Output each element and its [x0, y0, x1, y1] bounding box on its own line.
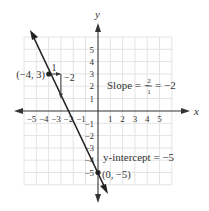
y-axis-arrow-up — [95, 23, 101, 32]
slope-annotation: Slope = − 2 1 = −2 — [107, 77, 176, 96]
svg-text:Slope = −: Slope = − — [107, 79, 150, 91]
svg-text:3: 3 — [90, 69, 95, 79]
svg-text:2: 2 — [120, 114, 125, 124]
rise-label: −2 — [64, 72, 75, 83]
svg-text:−5: −5 — [84, 168, 94, 178]
svg-text:1: 1 — [90, 94, 95, 104]
svg-text:= −2: = −2 — [155, 79, 176, 91]
intercept-annotation: y-intercept = −5 — [103, 151, 175, 163]
point-a-marker — [46, 71, 51, 76]
run-arrowhead — [56, 72, 61, 76]
x-tick-labels: −5 −4 −3 −2 −1 1 2 3 4 5 — [27, 114, 163, 124]
svg-text:−1: −1 — [84, 119, 94, 129]
run-label: 1 — [52, 62, 57, 73]
svg-text:−4: −4 — [39, 114, 49, 124]
svg-text:2: 2 — [90, 81, 95, 91]
svg-text:3: 3 — [133, 114, 138, 124]
svg-text:4: 4 — [145, 114, 150, 124]
point-b-marker — [95, 170, 100, 175]
svg-text:−5: −5 — [27, 114, 37, 124]
coordinate-plane: x y −5 −4 −3 −2 −1 1 2 3 4 5 5 4 3 2 1 −… — [0, 0, 209, 211]
svg-text:5: 5 — [157, 114, 162, 124]
svg-text:2: 2 — [147, 77, 151, 85]
svg-text:−3: −3 — [51, 114, 61, 124]
svg-text:−2: −2 — [84, 131, 94, 141]
x-axis-arrow-left — [14, 108, 23, 114]
line-arrow-bottom — [100, 184, 108, 194]
svg-text:1: 1 — [147, 88, 151, 96]
x-axis-arrow-right — [181, 108, 190, 114]
x-axis-label: x — [193, 105, 199, 117]
graph-line — [33, 36, 105, 188]
y-axis-label: y — [94, 8, 100, 20]
point-a-label: (−4, 3) — [16, 69, 45, 81]
y-axis-arrow-down — [95, 194, 101, 203]
point-b-label: (0, −5) — [102, 169, 131, 181]
svg-text:4: 4 — [90, 57, 95, 67]
svg-text:5: 5 — [90, 45, 95, 55]
svg-text:1: 1 — [108, 114, 113, 124]
